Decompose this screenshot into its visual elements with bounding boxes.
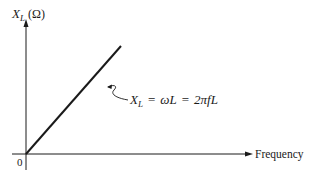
y-axis-unit: (Ω): [28, 7, 45, 21]
two-pi-f-l-term: 2πfL: [194, 92, 218, 107]
leader-arrowhead-icon: [107, 85, 112, 90]
origin-label: 0: [17, 156, 23, 168]
y-axis-label: XL(Ω): [11, 6, 45, 23]
y-axis-subscript: L: [19, 13, 25, 23]
omega-l-term: ωL: [160, 92, 176, 107]
equation-subscript: L: [137, 99, 143, 109]
x-axis-arrowhead-icon: [245, 152, 253, 157]
equals-sign-1: =: [148, 92, 155, 107]
equals-sign-2: =: [182, 92, 189, 107]
x-axis-label: Frequency: [255, 148, 304, 161]
line-equation: XL=ωL=2πfL: [129, 92, 218, 109]
reactance-vs-frequency-diagram: XL(Ω) Frequency 0 XL=ωL=2πfL: [0, 0, 309, 179]
reactance-line: [26, 46, 121, 154]
